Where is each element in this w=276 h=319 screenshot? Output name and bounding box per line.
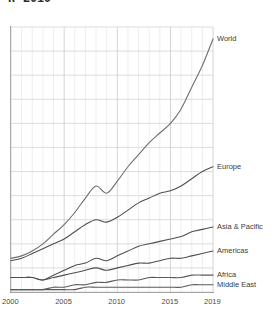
plot-svg [11, 27, 213, 292]
series-line [11, 167, 213, 261]
series-label-americas: Americas [217, 247, 248, 255]
series-line [11, 39, 213, 258]
series-label-asia-pacific: Asia & Pacific [217, 223, 263, 231]
x-tick-2000: 2000 [2, 297, 19, 306]
series-label-africa: Africa [217, 271, 236, 279]
series-line [11, 285, 213, 290]
series-label-world: World [217, 35, 236, 43]
series-label-middle-east: Middle East [217, 281, 256, 289]
line-chart: IP 2019 WorldEuropeAsia & PacificAmerica… [0, 0, 276, 319]
x-tick-2010: 2010 [108, 297, 125, 306]
horizontal-gridlines [11, 27, 213, 292]
series-label-europe: Europe [217, 163, 241, 171]
vertical-gridlines [11, 27, 213, 292]
series-line [11, 251, 213, 280]
x-tick-2019: 2019 [204, 297, 221, 306]
plot-area [11, 27, 213, 292]
x-tick-2015: 2015 [162, 297, 179, 306]
chart-title: IP 2019 [8, 0, 51, 5]
series-line [11, 227, 213, 280]
x-tick-2005: 2005 [55, 297, 72, 306]
series-lines [11, 39, 213, 290]
